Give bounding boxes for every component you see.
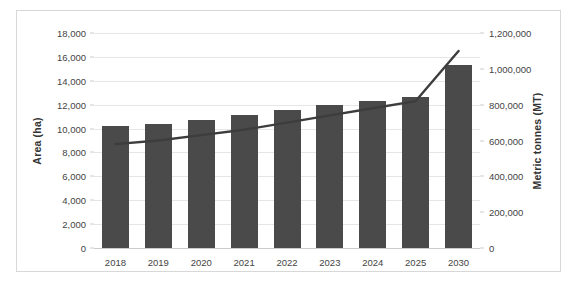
- y-axis-left-tick-mark: [90, 33, 94, 34]
- bar: [102, 126, 129, 248]
- y-axis-left-tick-mark: [90, 248, 94, 249]
- y-axis-left-tick-label: 4,000: [62, 195, 86, 206]
- y-axis-left-tick-mark: [90, 224, 94, 225]
- y-axis-right-tick-label: 600,000: [489, 135, 523, 146]
- y-axis-right-tick-label: 1,200,000: [489, 28, 531, 39]
- y-axis-right-tick-label: 400,000: [489, 171, 523, 182]
- bar: [445, 65, 472, 248]
- y-axis-left-tick-mark: [90, 80, 94, 81]
- x-axis-tick-label: 2018: [105, 257, 126, 268]
- y-axis-right-tick-mark: [480, 104, 484, 105]
- chart-figure: Area (ha) Metric tonnes (MT) 02,0004,000…: [0, 0, 585, 296]
- y-axis-right-tick-label: 800,000: [489, 99, 523, 110]
- y-axis-left-tick-mark: [90, 200, 94, 201]
- y-axis-left-tick-label: 12,000: [57, 99, 86, 110]
- y-axis-left-tick-label: 0: [81, 243, 86, 254]
- y-axis-left-title: Area (ha): [31, 117, 43, 164]
- y-axis-right-tick-label: 200,000: [489, 207, 523, 218]
- y-axis-left-tick-label: 2,000: [62, 219, 86, 230]
- y-axis-left-tick-label: 18,000: [57, 28, 86, 39]
- y-axis-right-tick-label: 0: [489, 243, 494, 254]
- bar: [231, 115, 258, 248]
- chart-plot-area: 02,0004,0006,0008,00010,00012,00014,0001…: [94, 33, 480, 248]
- y-axis-left-tick-mark: [90, 56, 94, 57]
- y-axis-right-tick-mark: [480, 248, 484, 249]
- gridline: [94, 33, 480, 34]
- bar: [402, 97, 429, 248]
- bar: [188, 120, 215, 248]
- y-axis-left-tick-mark: [90, 152, 94, 153]
- x-axis-tick-label: 2024: [362, 257, 383, 268]
- y-axis-right-tick-mark: [480, 68, 484, 69]
- x-axis-tick-label: 2025: [405, 257, 426, 268]
- gridline: [94, 81, 480, 82]
- x-axis-tick-label: 2021: [234, 257, 255, 268]
- bar: [145, 124, 172, 248]
- y-axis-right-tick-mark: [480, 33, 484, 34]
- y-axis-left-tick-label: 6,000: [62, 171, 86, 182]
- y-axis-left-tick-label: 10,000: [57, 123, 86, 134]
- y-axis-left-tick-label: 14,000: [57, 75, 86, 86]
- y-axis-left-tick-label: 16,000: [57, 51, 86, 62]
- y-axis-right-title: Metric tonnes (MT): [532, 93, 544, 190]
- bar: [274, 110, 301, 248]
- x-axis-tick-label: 2019: [148, 257, 169, 268]
- y-axis-right-tick-mark: [480, 212, 484, 213]
- y-axis-right-tick-mark: [480, 140, 484, 141]
- y-axis-left-tick-mark: [90, 104, 94, 105]
- gridline: [94, 57, 480, 58]
- y-axis-left-tick-mark: [90, 176, 94, 177]
- gridline: [94, 248, 480, 249]
- y-axis-right-tick-mark: [480, 176, 484, 177]
- x-axis-tick-label: 2023: [319, 257, 340, 268]
- bar: [316, 105, 343, 248]
- bar: [359, 101, 386, 249]
- y-axis-right-tick-label: 1,000,000: [489, 63, 531, 74]
- y-axis-left-tick-label: 8,000: [62, 147, 86, 158]
- x-axis-tick-label: 2030: [448, 257, 469, 268]
- x-axis-tick-label: 2022: [276, 257, 297, 268]
- y-axis-left-tick-mark: [90, 128, 94, 129]
- x-axis-tick-label: 2020: [191, 257, 212, 268]
- chart-plot-frame: Area (ha) Metric tonnes (MT) 02,0004,000…: [16, 10, 561, 272]
